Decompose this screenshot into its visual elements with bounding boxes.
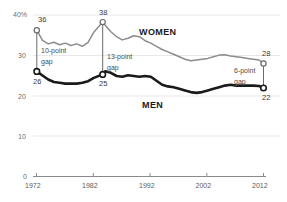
label-men-end: 22 [262, 93, 270, 102]
x-tick-label-2012: 2012 [252, 182, 268, 189]
gap-1972-line2: gap [41, 58, 53, 66]
marker-women-2012 [261, 61, 266, 66]
gap-1983-line1: 13-point [107, 53, 132, 61]
x-tick-label-1992: 1992 [139, 182, 155, 189]
men-series-label: MEN [142, 100, 163, 110]
y-tick-0: 0 [23, 173, 27, 180]
label-women-peak: 38 [99, 8, 107, 17]
marker-men-2012 [261, 85, 267, 91]
label-women-end: 28 [262, 49, 270, 58]
marker-women-1983 [100, 20, 105, 25]
x-tick-label-1982: 1982 [82, 182, 98, 189]
label-women-start: 36 [38, 15, 46, 24]
marker-men-1983 [100, 72, 106, 78]
gap-2012-line1: 6-point [234, 67, 255, 75]
gap-2012-line2: gap [234, 78, 246, 86]
label-men-mid: 25 [99, 79, 107, 88]
gap-1983-line2: gap [107, 64, 119, 72]
x-tick-label-1972: 1972 [25, 182, 41, 189]
y-tick-20: 20 [18, 93, 26, 100]
gap-1972-line1: 10-point [41, 47, 66, 55]
label-men-start: 26 [33, 77, 41, 86]
women-series-label: WOMEN [139, 27, 177, 37]
marker-men-1972 [34, 69, 40, 75]
marker-women-1972 [34, 28, 39, 33]
x-tick-label-2002: 2002 [196, 182, 212, 189]
y-tick-40: 40% [13, 11, 27, 18]
y-tick-30: 30 [18, 52, 26, 59]
y-tick-10: 10 [18, 133, 26, 140]
line-chart: 40% 30 20 10 0 1972 1982 1992 2002 2012 [0, 0, 287, 202]
